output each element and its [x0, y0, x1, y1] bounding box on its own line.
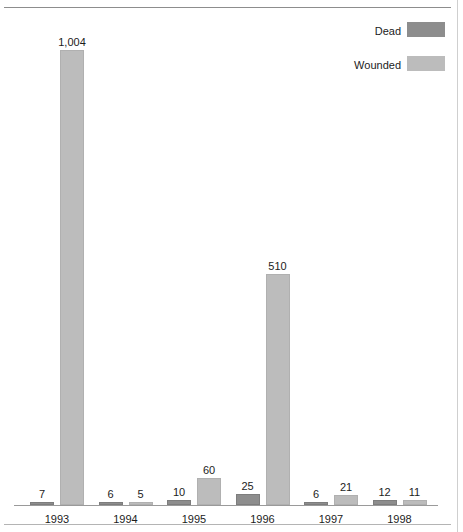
bar-value-label-wounded-1995: 60	[185, 464, 233, 476]
bar-dead-1995	[167, 500, 191, 505]
bar-chart-figure: 71,004651060255106211211 199319941995199…	[0, 0, 463, 532]
legend-item-wounded: Wounded	[340, 56, 445, 80]
bar-dead-1996	[236, 494, 260, 505]
bar-value-label-dead-1995: 10	[155, 486, 203, 498]
bar-wounded-1994	[129, 502, 153, 505]
bar-wounded-1993	[60, 50, 84, 505]
bar-value-label-wounded-1993: 1,004	[48, 36, 96, 48]
category-label-1998: 1998	[359, 513, 441, 526]
bar-dead-1993	[30, 502, 54, 505]
category-axis-line	[14, 505, 438, 506]
top-divider	[4, 7, 451, 8]
legend-swatch-dead	[407, 22, 445, 37]
bar-value-label-wounded-1996: 510	[254, 260, 302, 272]
legend-item-dead: Dead	[340, 22, 445, 46]
legend-label-dead: Dead	[375, 25, 401, 37]
bar-value-label-wounded-1998: 11	[391, 486, 439, 498]
bar-wounded-1995	[197, 478, 221, 505]
right-border	[457, 0, 458, 532]
legend-label-wounded: Wounded	[354, 59, 401, 71]
bar-value-label-dead-1993: 7	[18, 488, 66, 500]
legend-swatch-wounded	[407, 56, 445, 71]
bar-dead-1994	[99, 502, 123, 505]
bar-value-label-dead-1996: 25	[224, 480, 272, 492]
bar-dead-1998	[373, 500, 397, 505]
chart-legend: DeadWounded	[340, 22, 445, 90]
bar-wounded-1996	[266, 274, 290, 505]
bar-dead-1997	[304, 502, 328, 505]
bar-wounded-1997	[334, 495, 358, 505]
bar-wounded-1998	[403, 500, 427, 505]
